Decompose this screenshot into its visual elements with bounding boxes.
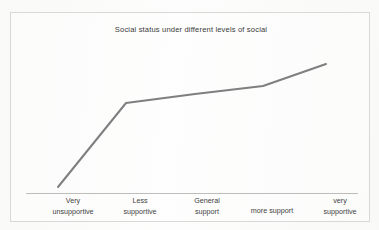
x-tick-label-line2: supportive (294, 207, 379, 218)
x-tick-label-line1: Very (66, 196, 80, 205)
x-tick-label-very-supportive: very supportive (294, 196, 379, 217)
plot-area (11, 13, 371, 223)
x-tick-label-line1: more support (251, 206, 293, 215)
line-series-svg (11, 13, 371, 223)
x-tick-label-line1: very (333, 196, 347, 205)
x-axis-labels: Very unsupportive Less supportive Genera… (26, 196, 358, 222)
chart-screenshot: Social status under different levels of … (0, 0, 379, 230)
chart-frame: Social status under different levels of … (10, 12, 370, 222)
x-axis-line (26, 193, 358, 194)
x-tick-label-line1: Less (132, 196, 147, 205)
line-series-path (58, 64, 326, 187)
x-tick-label-line1: General (194, 196, 220, 205)
